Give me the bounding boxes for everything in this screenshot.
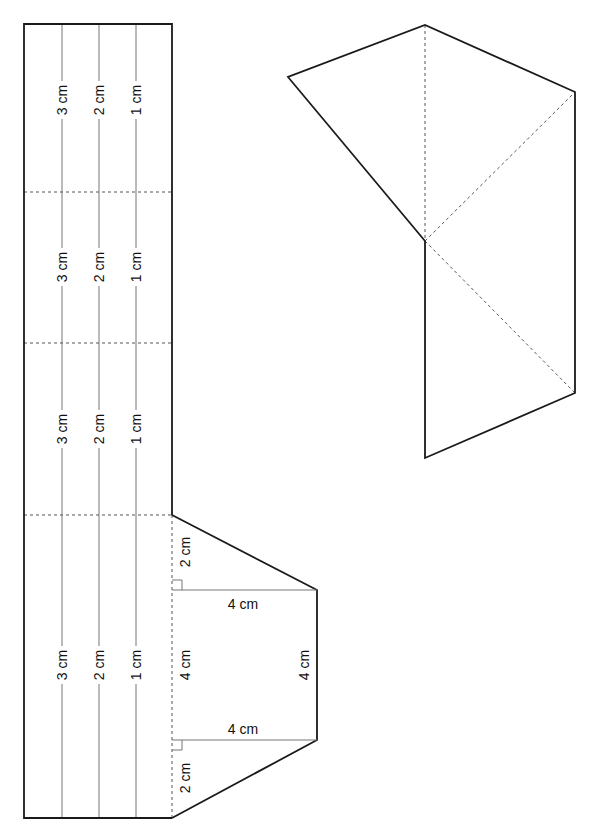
face-outer-height-label: 4 cm <box>296 650 312 680</box>
panel1-label-2cm: 2 cm <box>91 85 107 115</box>
panel4-label-1cm: 1 cm <box>128 650 144 680</box>
face-labels: 2 cm 4 cm 4 cm 4 cm 4 cm 2 cm <box>177 537 312 793</box>
face-bottom-width-label: 4 cm <box>228 721 258 737</box>
panel3-label-1cm: 1 cm <box>128 414 144 444</box>
face-inner-height-label: 4 cm <box>177 650 193 680</box>
panel2-label-2cm: 2 cm <box>91 252 107 282</box>
panel4-label-3cm: 3 cm <box>54 650 70 680</box>
panel4-label-2cm: 2 cm <box>91 650 107 680</box>
panel1-label-3cm: 3 cm <box>54 85 70 115</box>
panel2-label-3cm: 3 cm <box>54 252 70 282</box>
panel2-label-1cm: 1 cm <box>128 252 144 282</box>
face-top-leg-label: 2 cm <box>177 537 193 567</box>
panel3-label-2cm: 2 cm <box>91 414 107 444</box>
right-angle-mark <box>172 580 182 590</box>
solid-outline <box>288 25 575 458</box>
hidden-edge <box>425 241 575 393</box>
panel3-label-3cm: 3 cm <box>54 414 70 444</box>
right-angle-mark <box>172 740 182 750</box>
solid-figure <box>288 25 575 458</box>
diagram-canvas: 3 cm 2 cm 1 cm 3 cm 2 cm 1 cm 3 cm 2 cm … <box>0 0 613 838</box>
hidden-edge <box>425 92 575 241</box>
panel1-label-1cm: 1 cm <box>128 85 144 115</box>
face-bottom-leg-label: 2 cm <box>177 763 193 793</box>
face-top-width-label: 4 cm <box>228 596 258 612</box>
